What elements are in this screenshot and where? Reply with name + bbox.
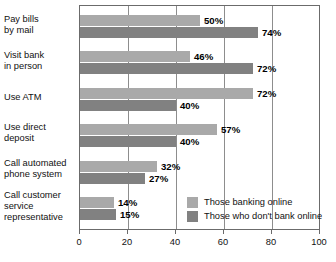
x-axis-tick-60 [223, 230, 224, 234]
bar-value-use-atm-not-online: 40% [180, 100, 199, 111]
bar-use-atm-not-online [80, 100, 176, 111]
bar-value-use-atm-online: 72% [257, 88, 276, 99]
bar-value-use-direct-deposit-not-online: 40% [180, 136, 199, 147]
legend-swatch-icon-those-who-dont-bank-online [187, 211, 198, 222]
bar-value-call-customer-service-representative-not-online: 15% [120, 209, 139, 220]
x-axis-label-60: 60 [218, 236, 228, 248]
bar-pay-bills-by-mail-not-online [80, 27, 258, 38]
category-label-use-atm: Use ATM [4, 92, 78, 103]
category-label-call-automated-phone-system: Call automated phone system [4, 158, 78, 180]
bar-visit-bank-in-person-online [80, 51, 190, 62]
category-label-visit-bank-in-person: Visit bank in person [4, 50, 78, 72]
x-axis-ticks [79, 230, 320, 235]
x-axis-label-80: 80 [266, 236, 276, 248]
bar-call-customer-service-representative-online [80, 197, 114, 208]
legend-item-those-who-dont-bank-online: Those who don't bank online [187, 209, 317, 223]
bar-use-direct-deposit-online [80, 124, 217, 135]
category-label-pay-bills-by-mail: Pay bills by mail [4, 14, 78, 36]
plot-area: 50% 74% 46% 72% 72% 40% 57% 40% 32% 27% [79, 5, 320, 230]
bar-pay-bills-by-mail-online [80, 15, 200, 26]
bar-value-visit-bank-in-person-not-online: 72% [257, 63, 276, 74]
x-axis-label-100: 100 [311, 236, 327, 248]
bar-value-pay-bills-by-mail-not-online: 74% [262, 27, 281, 38]
bar-use-direct-deposit-not-online [80, 136, 176, 147]
x-axis-tick-40 [175, 230, 176, 234]
x-axis-tick-20 [127, 230, 128, 234]
x-axis-tick-labels: 0 20 40 60 80 100 [79, 236, 320, 250]
category-label-call-customer-service-representative: Call customer service representative [4, 190, 78, 224]
bar-visit-bank-in-person-not-online [80, 63, 253, 74]
x-axis-label-40: 40 [170, 236, 180, 248]
x-axis-label-0: 0 [76, 236, 81, 248]
legend-item-those-banking-online: Those banking online [187, 195, 317, 209]
legend-label-those-who-dont-bank-online: Those who don't bank online [204, 211, 322, 222]
legend-swatch-icon-those-banking-online [187, 197, 198, 208]
gridline-40 [176, 6, 177, 229]
category-label-use-direct-deposit: Use direct deposit [4, 122, 78, 144]
x-axis-tick-80 [271, 230, 272, 234]
category-axis-labels: Pay bills by mail Visit bank in person U… [0, 0, 78, 262]
bar-call-automated-phone-system-online [80, 161, 157, 172]
gridline-20 [128, 6, 129, 229]
bar-value-visit-bank-in-person-online: 46% [194, 51, 213, 62]
x-axis-tick-0 [79, 230, 80, 234]
bar-call-customer-service-representative-not-online [80, 209, 116, 220]
x-axis-label-20: 20 [122, 236, 132, 248]
bar-call-automated-phone-system-not-online [80, 173, 145, 184]
bar-value-call-customer-service-representative-online: 14% [118, 197, 137, 208]
legend-label-those-banking-online: Those banking online [204, 197, 292, 208]
bar-value-call-automated-phone-system-online: 32% [161, 161, 180, 172]
bar-value-pay-bills-by-mail-online: 50% [204, 15, 223, 26]
chart-legend: Those banking online Those who don't ban… [187, 195, 317, 223]
bar-use-atm-online [80, 88, 253, 99]
bar-chart: Pay bills by mail Visit bank in person U… [0, 0, 336, 262]
bar-value-use-direct-deposit-online: 57% [221, 124, 240, 135]
bar-value-call-automated-phone-system-not-online: 27% [149, 173, 168, 184]
x-axis-tick-100 [319, 230, 320, 234]
